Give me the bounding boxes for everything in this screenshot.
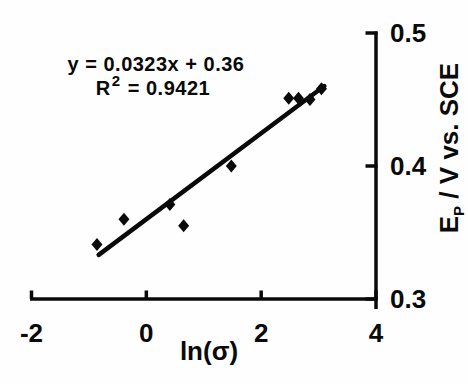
scatter-chart: -2024 0.50.40.3 y = 0.0323x + 0.36 R2 = …: [0, 0, 468, 384]
y-tick-label: 0.4: [390, 151, 427, 181]
y-tick-label: 0.3: [390, 284, 426, 314]
r-label: R: [96, 77, 111, 99]
fit-r-squared-text: R2 = 0.9421: [96, 72, 210, 99]
y-axis-title-subscript: P: [450, 206, 467, 216]
data-point: [283, 92, 294, 105]
data-point: [118, 213, 129, 226]
scatter-figure: -2024 0.50.40.3 y = 0.0323x + 0.36 R2 = …: [0, 0, 468, 384]
x-tick-label: -2: [20, 318, 43, 348]
data-point: [91, 238, 102, 251]
data-point: [226, 160, 237, 173]
y-axis-title: EP / V vs. SCE: [434, 63, 467, 233]
fit-line-group: [99, 86, 325, 255]
y-tick-label: 0.5: [390, 18, 426, 48]
fit-line: [99, 86, 325, 255]
x-tick-label: 4: [369, 318, 384, 348]
x-tick-label: 2: [254, 318, 268, 348]
y-axis-title-rest: / V vs. SCE: [434, 63, 464, 206]
r-exponent: 2: [112, 72, 121, 89]
data-point: [178, 219, 189, 232]
r-value: = 0.9421: [122, 77, 210, 99]
x-axis-title: ln(σ): [180, 336, 238, 366]
data-points: [91, 82, 326, 251]
x-tick-label: 0: [139, 318, 153, 348]
fit-equation-text: y = 0.0323x + 0.36: [68, 53, 245, 75]
y-axis-title-base: E: [434, 216, 464, 233]
